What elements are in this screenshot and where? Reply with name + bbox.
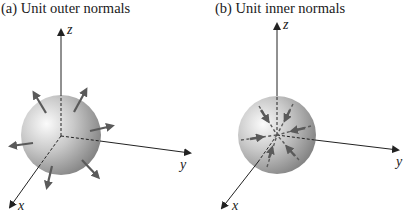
y-axis-label: y — [396, 154, 402, 170]
z-axis-label: z — [283, 17, 288, 33]
y-axis — [315, 140, 398, 150]
x-axis — [10, 165, 40, 207]
y-axis-label: y — [180, 157, 186, 173]
z-axis-label: z — [67, 22, 72, 38]
diagram-canvas — [0, 0, 404, 214]
figure: (a) Unit outer normals (b) Unit inner no… — [0, 0, 404, 214]
panel-a — [10, 30, 190, 207]
x-axis-label: x — [232, 198, 238, 214]
y-axis — [100, 141, 190, 153]
x-axis — [222, 162, 258, 208]
x-axis-label: x — [18, 198, 24, 214]
panel-b — [222, 24, 398, 208]
